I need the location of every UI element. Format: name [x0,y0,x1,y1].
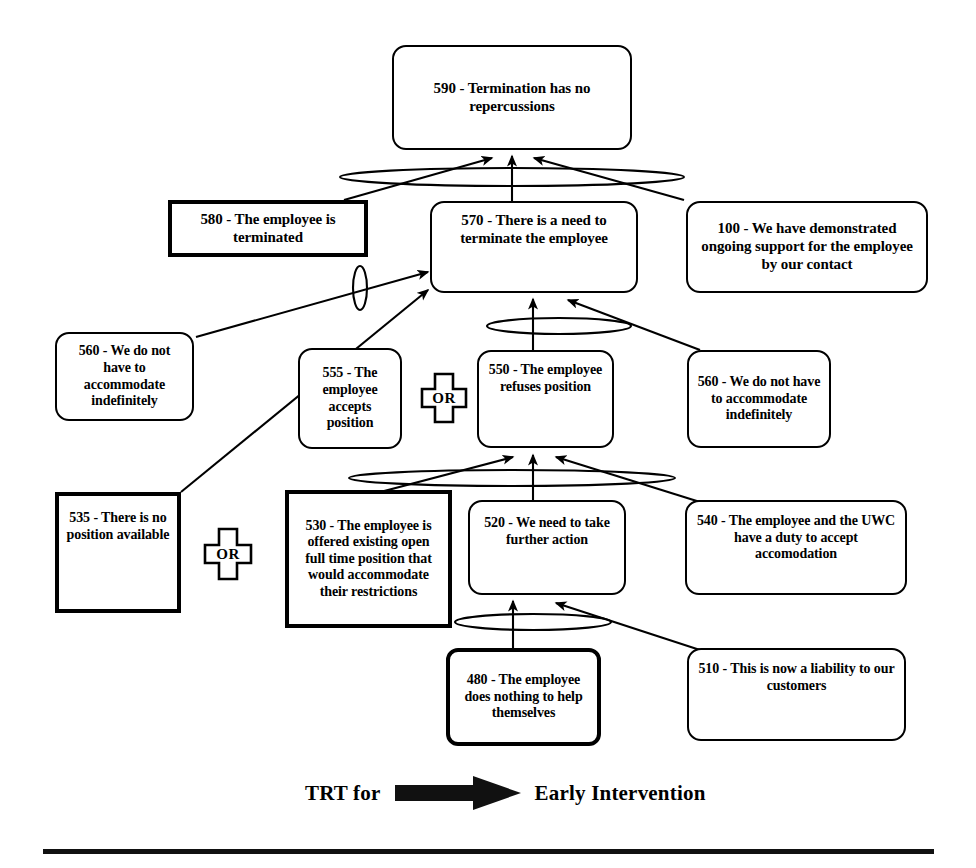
node-540[interactable]: 540 - The employee and the UWC have a du… [685,500,907,595]
node-540-label: 540 - The employee and the UWC have a du… [687,513,905,563]
and-connector-550 [349,470,675,486]
right-arrow-icon [395,776,521,810]
node-555[interactable]: 555 - The employee accepts position [298,348,402,449]
arrow-100-to-590 [534,158,684,200]
or-gate-535-530-label: OR [203,527,253,581]
node-590[interactable]: 590 - Termination has no repercussions [392,45,632,150]
node-560-right-label: 560 - We do not have to accommodate inde… [689,374,829,424]
or-gate-555-550[interactable]: OR [420,372,468,424]
node-580-label: 580 - The employee is terminated [172,211,364,246]
arrow-580-to-590 [344,158,492,200]
node-520-label: 520 - We need to take further action [470,515,624,548]
node-555-label: 555 - The employee accepts position [300,365,400,431]
arrow-560a-to-570 [196,272,428,337]
node-510[interactable]: 510 - This is now a liability to our cus… [687,648,906,741]
node-510-label: 510 - This is now a liability to our cus… [689,661,904,694]
node-100[interactable]: 100 - We have demonstrated ongoing suppo… [686,201,928,293]
arrow-540-to-550 [556,457,700,502]
node-535-label: 535 - There is no position available [59,510,177,543]
footer-rule [43,849,934,854]
and-connector-520 [455,614,611,630]
node-520[interactable]: 520 - We need to take further action [468,500,626,595]
node-480-label: 480 - The employee does nothing to help … [450,672,597,722]
or-gate-535-530[interactable]: OR [203,527,253,581]
diagram-canvas: 590 - Termination has no repercussions 5… [0,0,976,868]
node-100-label: 100 - We have demonstrated ongoing suppo… [688,220,926,273]
node-530-label: 530 - The employee is offered existing o… [289,518,448,601]
node-530[interactable]: 530 - The employee is offered existing o… [285,490,452,628]
and-connector-570-bottom [487,318,631,334]
caption-left-text: TRT for [305,781,381,806]
node-560-left[interactable]: 560 - We do not have to accommodate inde… [55,332,194,421]
node-550-label: 550 - The employee refuses position [479,362,612,395]
arrow-510-to-520 [556,603,700,650]
and-connector-590 [340,168,684,186]
node-480[interactable]: 480 - The employee does nothing to help … [446,648,601,746]
node-535[interactable]: 535 - There is no position available [55,492,181,613]
node-570-label: 570 - There is a need to terminate the e… [432,212,636,247]
arrow-560b-to-570 [568,300,700,350]
node-560-left-label: 560 - We do not have to accommodate inde… [57,343,192,409]
node-580[interactable]: 580 - The employee is terminated [168,200,368,257]
node-570[interactable]: 570 - There is a need to terminate the e… [430,201,638,293]
caption-right-text: Early Intervention [535,781,706,806]
and-connector-570-left [353,266,367,310]
node-550[interactable]: 550 - The employee refuses position [477,350,614,448]
node-590-label: 590 - Termination has no repercussions [394,80,630,115]
diagram-caption: TRT for Early Intervention [305,776,706,810]
node-560-right[interactable]: 560 - We do not have to accommodate inde… [687,350,831,448]
or-gate-555-550-label: OR [420,372,468,424]
